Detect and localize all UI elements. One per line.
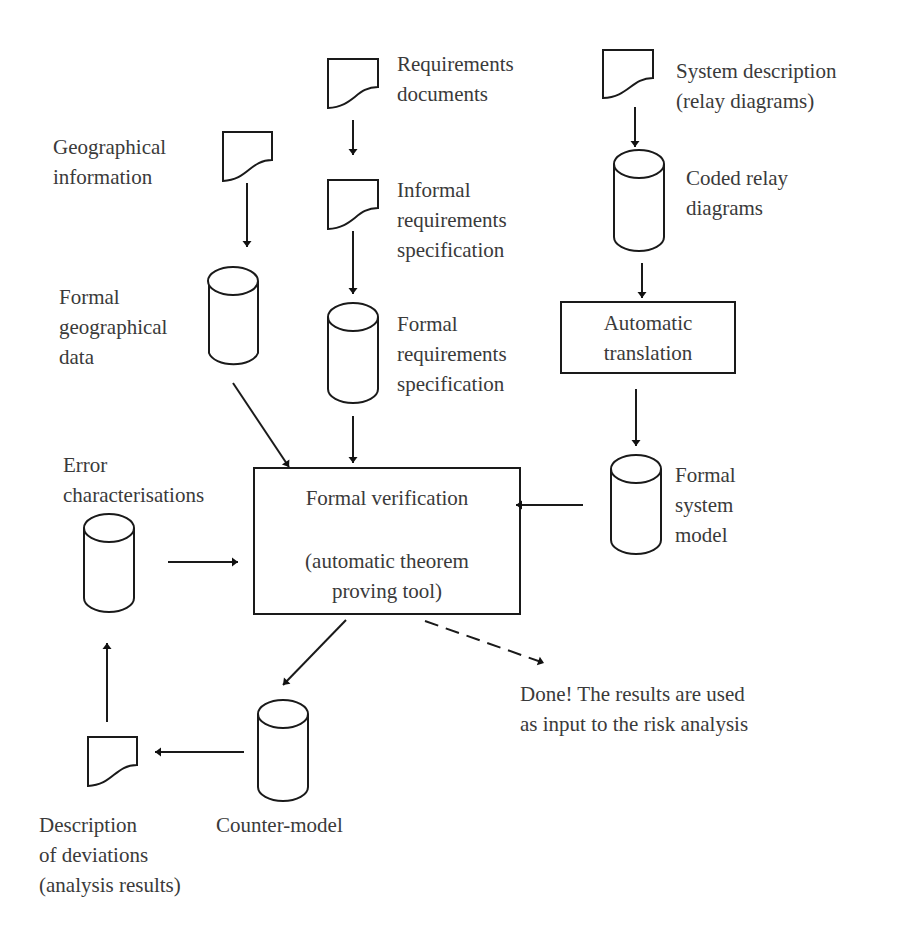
label-coded-relay-diagrams: Coded relay diagrams: [686, 163, 788, 223]
label-informal-requirements: Informal requirements specification: [397, 175, 507, 265]
label-line: Informal: [397, 175, 507, 205]
arrow-verification-to-done: [425, 621, 544, 663]
label-line: (automatic theorem: [254, 546, 520, 576]
label-line: diagrams: [686, 193, 788, 223]
label-line: Counter-model: [216, 810, 343, 840]
label-line: (relay diagrams): [676, 86, 836, 116]
document-informal-requirements: [328, 180, 378, 229]
database-formal-requirements: [328, 303, 378, 403]
label-line: Done! The results are used: [520, 679, 748, 709]
label-description-of-deviations: Description of deviations (analysis resu…: [39, 810, 181, 900]
label-formal-verification: Formal verification (automatic theorem p…: [254, 483, 520, 606]
label-line: specification: [397, 235, 507, 265]
label-automatic-translation: Automatic translation: [561, 308, 735, 368]
label-line: geographical: [59, 312, 167, 342]
label-line: Formal: [397, 309, 507, 339]
label-line: (analysis results): [39, 870, 181, 900]
document-description-of-deviations: [88, 737, 137, 786]
document-requirements-documents: [328, 59, 378, 108]
label-line: specification: [397, 369, 507, 399]
label-done-note: Done! The results are used as input to t…: [520, 679, 748, 739]
label-line: as input to the risk analysis: [520, 709, 748, 739]
arrow-verification-to-counter-model: [283, 620, 346, 685]
label-formal-system-model: Formal system model: [675, 460, 736, 550]
database-coded-relay-diagrams: [614, 150, 664, 251]
label-line: data: [59, 342, 167, 372]
database-formal-geographical-data: [208, 267, 258, 364]
database-error-characterisations: [84, 514, 134, 612]
label-line: model: [675, 520, 736, 550]
document-geographical-information: [223, 132, 272, 181]
label-requirements-documents: Requirements documents: [397, 49, 514, 109]
database-formal-system-model: [611, 455, 661, 554]
label-line: Description: [39, 810, 181, 840]
label-line: Formal: [59, 282, 167, 312]
label-formal-requirements: Formal requirements specification: [397, 309, 507, 399]
label-line: Geographical: [53, 132, 166, 162]
label-line: information: [53, 162, 166, 192]
label-formal-geographical-data: Formal geographical data: [59, 282, 167, 372]
label-line: Formal verification: [254, 483, 520, 513]
database-counter-model: [258, 700, 308, 801]
label-line: proving tool): [254, 576, 520, 606]
arrow-geo-data-to-verification: [233, 383, 289, 467]
document-system-description: [603, 50, 653, 98]
label-line: system: [675, 490, 736, 520]
label-line: Error: [63, 450, 204, 480]
label-counter-model: Counter-model: [216, 810, 343, 840]
label-system-description: System description (relay diagrams): [676, 56, 836, 116]
label-line: of deviations: [39, 840, 181, 870]
label-line: documents: [397, 79, 514, 109]
label-line: Formal: [675, 460, 736, 490]
label-geographical-information: Geographical information: [53, 132, 166, 192]
label-line: Automatic: [561, 308, 735, 338]
label-line: Coded relay: [686, 163, 788, 193]
label-error-characterisations: Error characterisations: [63, 450, 204, 510]
label-line: characterisations: [63, 480, 204, 510]
label-line: requirements: [397, 205, 507, 235]
label-line: requirements: [397, 339, 507, 369]
label-line: translation: [561, 338, 735, 368]
label-line: Requirements: [397, 49, 514, 79]
label-line: System description: [676, 56, 836, 86]
